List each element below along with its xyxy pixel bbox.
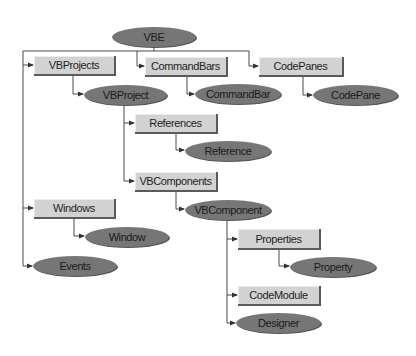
node-window: Window xyxy=(85,227,169,247)
node-vbproject: VBProject xyxy=(84,85,167,105)
node-reference: Reference xyxy=(185,141,271,161)
node-designer: Designer xyxy=(236,313,321,333)
node-references: References xyxy=(135,114,218,134)
object-model-diagram: VBE VBProjects CommandBars CodePanes VBP… xyxy=(0,0,416,356)
node-properties: Properties xyxy=(238,229,321,250)
node-codepanes: CodePanes xyxy=(259,57,344,77)
node-commandbars: CommandBars xyxy=(145,57,228,77)
node-commandbar: CommandBar xyxy=(195,84,281,104)
node-vbprojects: VBProjects xyxy=(34,56,116,76)
node-windows: Windows xyxy=(34,199,116,219)
node-codepane: CodePane xyxy=(313,85,398,105)
node-vbcomponents: VBComponents xyxy=(135,172,218,192)
node-property: Property xyxy=(290,257,376,277)
node-vbe: VBE xyxy=(112,27,196,47)
node-codemodule: CodeModule xyxy=(238,286,321,306)
node-events: Events xyxy=(33,256,117,276)
node-vbcomponent: VBComponent xyxy=(185,200,271,220)
